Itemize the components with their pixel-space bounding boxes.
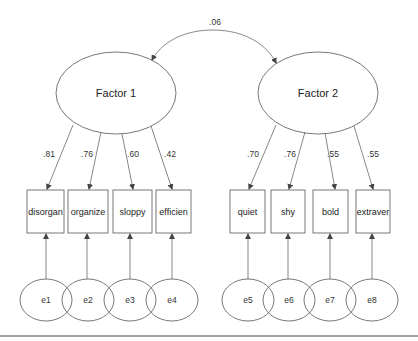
loading-value: .55 — [367, 149, 379, 159]
factor-correlation: .06 — [152, 17, 276, 63]
error-arrows — [46, 234, 372, 279]
error-label: e8 — [367, 295, 377, 305]
error-label: e6 — [284, 295, 294, 305]
factor-2: Factor 2 — [258, 52, 378, 134]
correlation-coefficient: .06 — [209, 17, 221, 27]
indicator-label: disorgan — [28, 207, 63, 217]
indicator-label: efficien — [159, 207, 187, 217]
indicator-label: organize — [71, 207, 106, 217]
loading-value: .60 — [127, 149, 139, 159]
loading-value: .55 — [327, 149, 339, 159]
error-label: e4 — [167, 295, 177, 305]
indicator-label: bold — [322, 207, 339, 217]
loading-value: .81 — [43, 149, 55, 159]
loading-arrow — [289, 132, 305, 189]
correlation-arrow-right — [213, 30, 276, 63]
indicator-boxes: disorgan organize sloppy efficien quiet … — [27, 190, 390, 233]
loading-arrow — [325, 133, 335, 189]
correlation-arrow-left — [152, 30, 213, 60]
error-terms: e1 e2 e3 e4 e5 e6 e7 e8 — [20, 279, 398, 321]
factor-2-loadings: .70 .76 .55 .55 — [247, 125, 379, 189]
error-label: e1 — [41, 295, 51, 305]
cfa-diagram: .06 Factor 1 Factor 2 .81 .76 .60 .42 .7… — [0, 0, 418, 341]
loading-arrow — [122, 134, 133, 189]
factor-1: Factor 1 — [56, 52, 176, 134]
factor-2-label: Factor 2 — [298, 87, 338, 99]
loading-value: .76 — [81, 149, 93, 159]
indicator-label: shy — [281, 207, 296, 217]
indicator-label: extraver — [357, 207, 390, 217]
loading-value: .76 — [284, 149, 296, 159]
error-label: e5 — [243, 295, 253, 305]
factor-1-loadings: .81 .76 .60 .42 — [43, 125, 176, 189]
error-label: e2 — [83, 295, 93, 305]
loading-value: .70 — [247, 149, 259, 159]
loading-value: .42 — [164, 149, 176, 159]
error-label: e7 — [325, 295, 335, 305]
factor-1-label: Factor 1 — [96, 87, 136, 99]
error-label: e3 — [125, 295, 135, 305]
indicator-label: quiet — [238, 207, 258, 217]
indicator-label: sloppy — [119, 207, 146, 217]
loading-arrow — [89, 132, 101, 189]
